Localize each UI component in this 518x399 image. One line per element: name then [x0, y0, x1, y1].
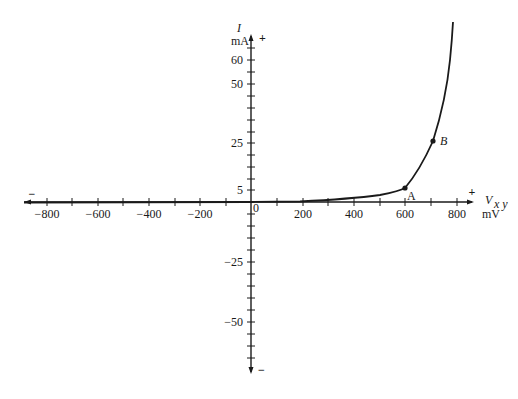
x-negative-sign: −: [29, 187, 36, 201]
y-axis: 60 50 25 5 −25 −50 I mA + −: [224, 21, 266, 377]
origin-label: 0: [253, 201, 259, 215]
y-axis-unit: mA: [231, 34, 249, 48]
y-tick-label: −25: [224, 255, 243, 269]
y-axis-name: I: [236, 21, 242, 35]
y-axis-down-arrow-icon: [249, 367, 254, 374]
x-axis-name: V: [485, 193, 494, 207]
x-tick-label: 600: [396, 207, 414, 221]
x-tick-label: −200: [188, 207, 213, 221]
y-tick-label: 25: [231, 136, 243, 150]
x-tick-label: −400: [137, 207, 162, 221]
iv-curve: [24, 22, 453, 203]
iv-chart: −800 −600 −400 −200 0 200 400 600 800 − …: [0, 0, 518, 399]
y-negative-sign: −: [258, 363, 265, 377]
y-tick-label: 50: [231, 77, 243, 91]
x-tick-label: 200: [294, 207, 312, 221]
y-positive-sign: +: [259, 31, 266, 45]
x-axis-right-arrow-icon: [467, 200, 474, 205]
point-b-label: B: [440, 134, 448, 148]
y-axis-up-arrow-icon: [249, 34, 254, 41]
y-tick-label: 5: [237, 183, 243, 197]
point-a-label: A: [407, 189, 416, 203]
point-b-marker: [430, 138, 435, 143]
x-tick-label: −800: [35, 207, 60, 221]
x-positive-sign: +: [469, 185, 476, 199]
x-tick-label: −600: [86, 207, 111, 221]
x-axis-unit: mV: [482, 207, 500, 221]
y-tick-label: 60: [231, 53, 243, 67]
x-tick-label: 800: [448, 207, 466, 221]
x-tick-label: 400: [345, 207, 363, 221]
y-tick-label: −50: [224, 315, 243, 329]
